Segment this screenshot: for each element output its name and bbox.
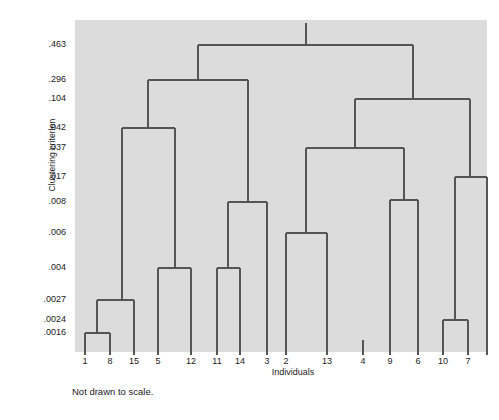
y-tick-label: .104 bbox=[18, 93, 66, 103]
x-tick-label-3: 3 bbox=[257, 356, 277, 366]
plot-background bbox=[75, 20, 487, 352]
x-tick-label-8: 8 bbox=[100, 356, 120, 366]
figure-footnote: Not drawn to scale. bbox=[72, 386, 153, 397]
y-tick-label: .037 bbox=[18, 142, 66, 152]
y-tick-label: .004 bbox=[18, 262, 66, 272]
x-tick-label-10: 10 bbox=[433, 356, 453, 366]
x-tick-label-1: 1 bbox=[75, 356, 95, 366]
dendrogram-figure: Clustering criterion .463.296.104.042.03… bbox=[0, 0, 499, 420]
x-tick-label-13: 13 bbox=[317, 356, 337, 366]
y-tick-label: .006 bbox=[18, 227, 66, 237]
x-tick-label-7: 7 bbox=[458, 356, 478, 366]
x-tick-label-12: 12 bbox=[181, 356, 201, 366]
y-tick-label: .463 bbox=[18, 39, 66, 49]
x-tick-label-15: 15 bbox=[124, 356, 144, 366]
y-tick-label: .008 bbox=[18, 196, 66, 206]
x-axis-title: Individuals bbox=[233, 367, 353, 377]
x-tick-label-14: 14 bbox=[230, 356, 250, 366]
y-tick-label: .042 bbox=[18, 122, 66, 132]
x-tick-label-4: 4 bbox=[353, 356, 373, 366]
y-tick-label: .0027 bbox=[18, 294, 66, 304]
y-tick-label: .296 bbox=[18, 74, 66, 84]
y-tick-label: .017 bbox=[18, 171, 66, 181]
x-tick-label-9: 9 bbox=[380, 356, 400, 366]
y-tick-label: .0016 bbox=[18, 327, 66, 337]
x-tick-label-6: 6 bbox=[408, 356, 428, 366]
x-tick-label-11: 11 bbox=[207, 356, 227, 366]
y-tick-label: .0024 bbox=[18, 314, 66, 324]
x-tick-label-5: 5 bbox=[148, 356, 168, 366]
x-tick-label-2: 2 bbox=[276, 356, 296, 366]
